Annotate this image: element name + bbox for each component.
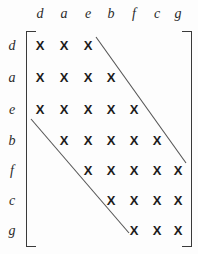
matrix-mark-c-f: X	[127, 194, 141, 208]
matrix-mark-a-d: X	[33, 71, 47, 85]
matrix-mark-e-e: X	[81, 103, 95, 117]
row-label-e: e	[4, 102, 20, 118]
row-label-d: d	[4, 38, 20, 54]
matrix-mark-d-a: X	[57, 39, 71, 53]
matrix-mark-g-c: X	[150, 224, 164, 238]
column-label-f: f	[126, 6, 142, 22]
row-label-g: g	[4, 223, 20, 239]
matrix-mark-b-b: X	[104, 134, 118, 148]
matrix-mark-f-b: X	[104, 164, 118, 178]
matrix-mark-a-a: X	[57, 71, 71, 85]
matrix-mark-b-e: X	[81, 134, 95, 148]
matrix-mark-b-a: X	[57, 134, 71, 148]
column-label-e: e	[80, 6, 96, 22]
matrix-mark-d-e: X	[81, 39, 95, 53]
column-label-a: a	[56, 6, 72, 22]
matrix-mark-c-b: X	[104, 194, 118, 208]
row-label-c: c	[4, 193, 20, 209]
matrix-mark-e-f: X	[127, 103, 141, 117]
matrix-mark-g-g: X	[171, 224, 185, 238]
matrix-mark-f-g: X	[171, 164, 185, 178]
matrix-mark-b-c: X	[150, 134, 164, 148]
column-label-d: d	[32, 6, 48, 22]
column-label-g: g	[170, 6, 186, 22]
matrix-mark-c-c: X	[150, 194, 164, 208]
banded-matrix-figure: daebfcg daebfcg XXXXXXXXXXXXXXXXXXXXXXXX…	[0, 0, 198, 254]
matrix-mark-a-b: X	[104, 71, 118, 85]
matrix-mark-b-f: X	[127, 134, 141, 148]
matrix-mark-e-a: X	[57, 103, 71, 117]
matrix-mark-a-e: X	[81, 71, 95, 85]
matrix-left-bracket	[26, 31, 36, 247]
row-label-a: a	[4, 70, 20, 86]
matrix-mark-f-c: X	[150, 164, 164, 178]
matrix-mark-e-d: X	[33, 103, 47, 117]
row-label-b: b	[4, 133, 20, 149]
matrix-mark-f-e: X	[81, 164, 95, 178]
column-label-c: c	[149, 6, 165, 22]
row-label-f: f	[4, 163, 20, 179]
column-label-b: b	[103, 6, 119, 22]
matrix-mark-g-f: X	[127, 224, 141, 238]
matrix-mark-d-d: X	[33, 39, 47, 53]
matrix-mark-e-b: X	[104, 103, 118, 117]
matrix-mark-f-f: X	[127, 164, 141, 178]
matrix-right-bracket	[182, 31, 192, 247]
matrix-mark-c-g: X	[171, 194, 185, 208]
